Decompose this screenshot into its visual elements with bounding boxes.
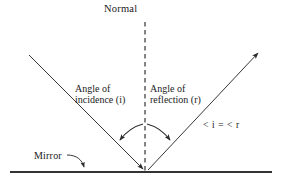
angle-of-incidence-line2: incidence (i) [75,94,125,105]
angle-equality-label: < i = < r [203,120,240,131]
angle-arc-incidence [120,124,143,140]
mirror-label: Mirror [34,150,62,161]
angle-of-reflection-line2: reflection (r) [150,94,201,105]
mirror-leader-arrow [67,155,84,167]
angle-of-incidence-line1: Angle of [75,83,125,94]
angle-of-reflection-label: Angle of reflection (r) [150,83,201,105]
angle-of-reflection-line1: Angle of [150,83,201,94]
angle-arc-reflection [147,124,170,140]
reflection-diagram-canvas: Normal Angle of incidence (i) Angle of r… [0,0,282,187]
reflected-ray [148,53,258,170]
angle-of-incidence-label: Angle of incidence (i) [75,83,125,105]
normal-label: Normal [104,3,137,15]
